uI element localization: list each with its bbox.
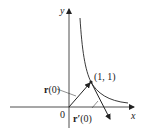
rprime0-label: r′(0) [73, 113, 92, 125]
x-axis-label: x [130, 110, 136, 121]
tangent-vector-arrow [91, 82, 110, 119]
origin-label: 0 [60, 109, 65, 120]
point-1-1 [89, 80, 92, 83]
y-axis-label: y [59, 5, 65, 16]
diagram-canvas: y x 0 (1, 1) r(0) r′(0) [0, 0, 141, 133]
position-vector-arrow [69, 83, 90, 107]
hyperbola-curve [80, 18, 128, 103]
r0-label: r(0) [44, 84, 60, 96]
point-label: (1, 1) [94, 71, 116, 83]
